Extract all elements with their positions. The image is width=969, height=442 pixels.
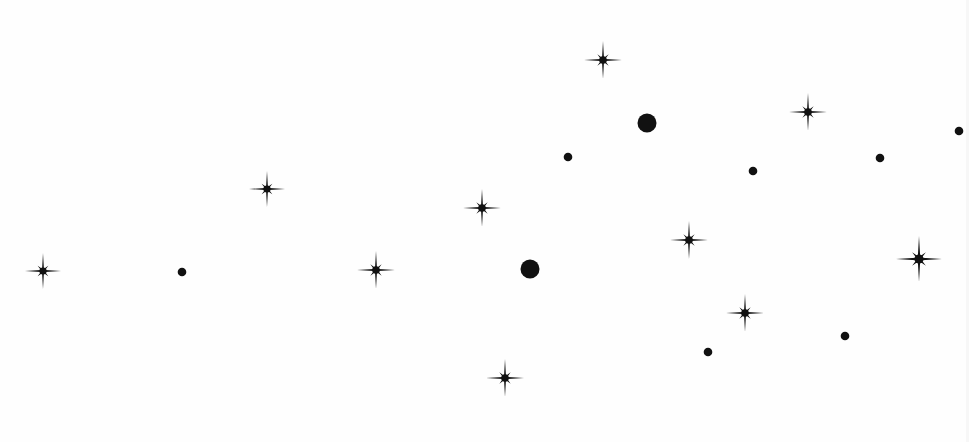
sparkle-star-core: [263, 185, 270, 192]
small-dot-icon: [749, 167, 758, 176]
sparkle-star-core: [372, 266, 380, 274]
starfield-canvas: [0, 0, 969, 442]
sparkle-star-core: [599, 56, 607, 64]
sparkle-star-core: [685, 236, 693, 244]
sparkle-star-core: [804, 108, 812, 116]
starfield: [0, 0, 969, 442]
small-dot-icon: [564, 153, 573, 162]
sparkle-star-core: [501, 374, 509, 382]
small-dot-icon: [876, 154, 885, 163]
large-dot-icon: [638, 114, 657, 133]
sparkle-star-core: [478, 204, 486, 212]
small-dot-icon: [955, 127, 964, 136]
large-dot-icon: [521, 260, 540, 279]
small-dot-icon: [704, 348, 713, 357]
sparkle-star-core: [39, 267, 46, 274]
small-dot-icon: [178, 268, 187, 277]
sparkle-star-core: [741, 309, 749, 317]
sparkle-star-core: [914, 254, 923, 263]
small-dot-icon: [841, 332, 850, 341]
